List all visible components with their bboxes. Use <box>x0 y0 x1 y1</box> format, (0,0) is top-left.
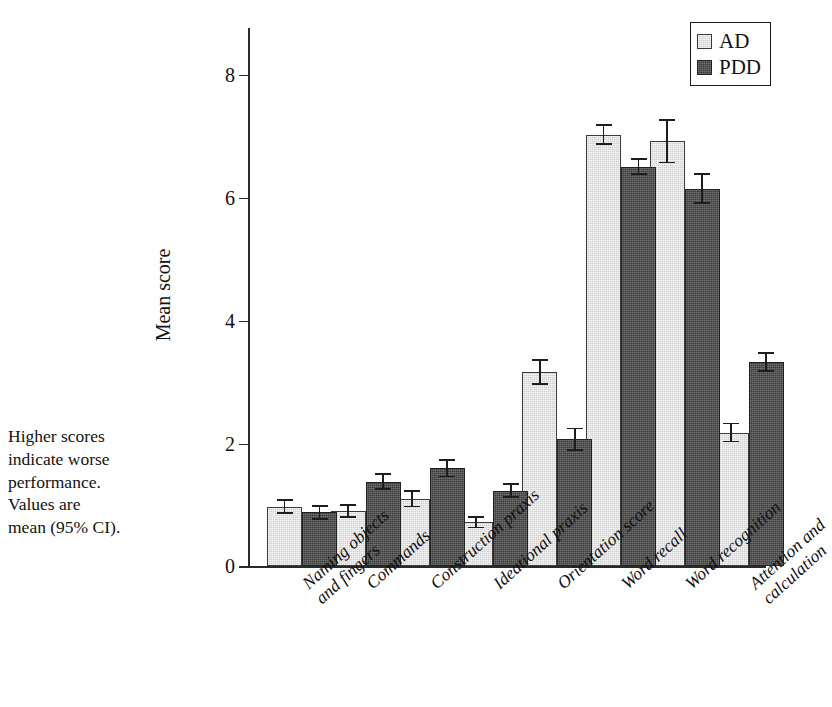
error-bar-cap-bottom <box>758 370 774 372</box>
error-bar-cap-bottom <box>567 449 583 451</box>
caption-line: performance. <box>8 471 158 494</box>
error-bar-cap-bottom <box>404 506 420 508</box>
error-bar-line <box>574 428 576 451</box>
y-tick-label: 6 <box>225 186 235 209</box>
x-category-label-line: Orientation score <box>553 578 567 593</box>
error-bar-cap-top <box>532 359 548 361</box>
y-axis-line <box>248 28 250 568</box>
x-category-label: Ideational praxis <box>489 578 503 593</box>
legend-swatch-pdd <box>697 60 712 75</box>
legend-label-ad: AD <box>719 31 749 52</box>
x-category-label: Attention andcalculation <box>745 578 772 608</box>
error-bar-cap-bottom <box>631 173 647 175</box>
error-bar-cap-top <box>567 428 583 430</box>
error-bar-cap-top <box>758 352 774 354</box>
x-category-label: Construction praxis <box>426 578 440 593</box>
x-category-label-line: Word recall <box>617 578 631 593</box>
x-category-label-line: Commands <box>362 578 376 593</box>
legend-entry-pdd: PDD <box>697 54 761 80</box>
error-bar-line <box>765 352 767 372</box>
legend-swatch-ad <box>697 34 712 49</box>
bar-ad-0 <box>267 507 302 567</box>
x-category-label-line: Ideational praxis <box>489 578 503 593</box>
error-bar-line <box>701 173 703 204</box>
bar-pdd-6 <box>685 189 720 567</box>
error-bar-cap-top <box>277 499 293 501</box>
figure-caption: Higher scoresindicate worseperformance.V… <box>8 425 158 539</box>
error-bar-cap-bottom <box>277 512 293 514</box>
error-bar-line <box>603 124 605 145</box>
error-bar-line <box>539 359 541 385</box>
y-tick-label: 0 <box>225 555 235 578</box>
x-category-label-line: Construction praxis <box>426 578 440 593</box>
y-tick-mark <box>239 198 248 199</box>
caption-line: mean (95% CI). <box>8 516 158 539</box>
error-bar-cap-bottom <box>439 476 455 478</box>
error-bar-cap-bottom <box>694 202 710 204</box>
error-bar-cap-bottom <box>596 143 612 145</box>
chart-legend: ADPDD <box>690 22 771 86</box>
legend-entry-ad: AD <box>697 28 761 54</box>
y-tick-label: 4 <box>225 309 235 332</box>
y-tick-mark <box>239 444 248 445</box>
error-bar-cap-bottom <box>659 162 675 164</box>
caption-line: Values are <box>8 493 158 516</box>
x-category-label: Orientation score <box>553 578 567 593</box>
y-tick-label: 8 <box>225 64 235 87</box>
error-bar-cap-top <box>439 459 455 461</box>
x-category-label: Word recall <box>617 578 631 593</box>
error-bar-cap-top <box>631 158 647 160</box>
y-axis-label: Mean score <box>152 249 175 342</box>
error-bar-cap-top <box>312 505 328 507</box>
y-tick-label: 2 <box>225 432 235 455</box>
error-bar-cap-top <box>375 473 391 475</box>
error-bar-cap-bottom <box>340 516 356 518</box>
x-category-label-line: and fingers <box>312 593 326 608</box>
error-bar-cap-top <box>723 423 739 425</box>
x-category-label-line: calculation <box>758 593 772 608</box>
x-category-label-line: Word recognition <box>681 578 695 593</box>
error-bar-cap-top <box>503 483 519 485</box>
plot-area: 02468 <box>248 28 766 568</box>
error-bar-cap-bottom <box>532 383 548 385</box>
caption-line: Higher scores <box>8 425 158 448</box>
error-bar-cap-top <box>340 504 356 506</box>
y-tick-mark <box>239 566 248 567</box>
error-bar-cap-top <box>596 124 612 126</box>
x-category-label: Commands <box>362 578 376 593</box>
x-category-label: Word recognition <box>681 578 695 593</box>
x-category-label: Naming objectsand fingers <box>298 578 325 608</box>
error-bar-cap-top <box>694 173 710 175</box>
error-bar-cap-top <box>404 490 420 492</box>
error-bar-line <box>666 119 668 163</box>
y-tick-mark <box>239 321 248 322</box>
error-bar-cap-top <box>468 516 484 518</box>
x-category-label-line: Attention and <box>745 578 759 593</box>
error-bar-cap-top <box>659 119 675 121</box>
y-tick-mark <box>239 75 248 76</box>
caption-line: indicate worse <box>8 448 158 471</box>
error-bar-cap-bottom <box>312 518 328 520</box>
legend-label-pdd: PDD <box>719 57 761 78</box>
error-bar-cap-bottom <box>375 488 391 490</box>
x-category-label-line: Naming objects <box>298 578 312 593</box>
error-bar-line <box>730 423 732 443</box>
error-bar-cap-bottom <box>723 441 739 443</box>
